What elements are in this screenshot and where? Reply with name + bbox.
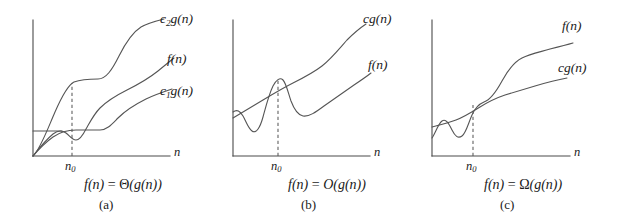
- curve-cgn: [233, 24, 366, 118]
- caption-omega: f(n) = Ω(g(n)): [484, 178, 562, 192]
- curve-c2gn: [33, 19, 164, 156]
- panel-bigo: cg(n) f(n) n n0 f(n) = O(g(n)) (b): [205, 0, 410, 215]
- n0-label: n0: [65, 160, 76, 174]
- curve-fn: [432, 43, 573, 138]
- curve-label-c2gn: c2g(n): [160, 12, 193, 28]
- curve-label-c1gn: c1g(n): [160, 84, 193, 100]
- x-axis-label: n: [574, 146, 580, 159]
- panel-letter-a: (a): [99, 198, 113, 211]
- n0-label: n0: [271, 160, 282, 174]
- panel-omega: f(n) cg(n) n n0 f(n) = Ω(g(n)) (c): [410, 0, 617, 215]
- curve-fn: [33, 58, 174, 156]
- curve-c1gn: [33, 89, 172, 156]
- curve-label-cgn: cg(n): [558, 61, 587, 75]
- x-axis-label: n: [374, 146, 380, 159]
- panel-letter-c: (c): [500, 198, 514, 211]
- curve-fn: [233, 73, 371, 132]
- curve-label-cgn: cg(n): [363, 12, 392, 26]
- curve-label-fn: f(n): [562, 19, 582, 33]
- asymptotic-notation-figure: c2g(n) f(n) c1g(n) n n0 f(n) = Θ(g(n)) (…: [0, 0, 617, 215]
- panel-letter-b: (b): [301, 198, 316, 211]
- curve-label-fn: f(n): [368, 58, 388, 72]
- panel-theta: c2g(n) f(n) c1g(n) n n0 f(n) = Θ(g(n)) (…: [0, 0, 210, 215]
- caption-theta: f(n) = Θ(g(n)): [84, 178, 162, 192]
- caption-bigo: f(n) = O(g(n)): [288, 178, 366, 192]
- x-axis-label: n: [174, 146, 180, 159]
- curve-label-fn: f(n): [167, 52, 187, 66]
- n0-label: n0: [466, 160, 477, 174]
